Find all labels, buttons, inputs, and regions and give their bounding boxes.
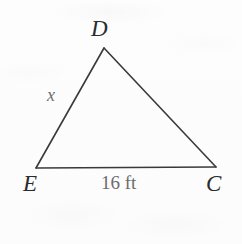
triangle-shape <box>0 0 242 244</box>
side-label-base-length: 16 ft <box>101 173 136 192</box>
vertex-label-e: E <box>23 172 37 195</box>
side-label-unknown-x: x <box>47 86 55 104</box>
triangle-edge-EC <box>36 167 216 168</box>
vertex-label-d: D <box>91 17 108 40</box>
vertex-label-c: C <box>206 172 221 195</box>
geometry-figure: D E C x 16 ft <box>0 0 242 244</box>
triangle-edge-DC <box>104 48 216 167</box>
triangle-edge-DE <box>36 48 104 168</box>
